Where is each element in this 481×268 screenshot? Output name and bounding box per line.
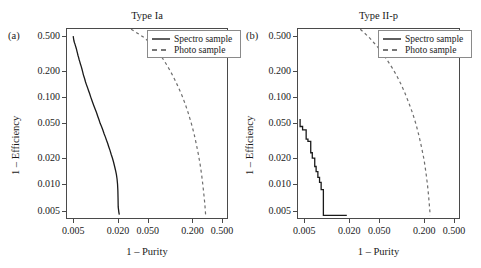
x-axis-label-b: 1 – Purity bbox=[297, 246, 460, 257]
y-tick-label: 0.020 bbox=[247, 152, 291, 163]
y-tick-mark bbox=[293, 71, 297, 72]
x-tick-label: 0.050 bbox=[357, 225, 401, 236]
x-tick-label: 0.500 bbox=[432, 225, 476, 236]
y-tick-label: 0.050 bbox=[16, 117, 60, 128]
legend-label-spectro-a: Spectro sample bbox=[171, 34, 232, 44]
legend-row-photo-a: Photo sample bbox=[151, 44, 236, 55]
y-tick-mark bbox=[62, 158, 66, 159]
x-tick-label: 0.005 bbox=[51, 225, 95, 236]
legend-a: Spectro sample Photo sample bbox=[147, 30, 241, 58]
legend-row-spectro-a: Spectro sample bbox=[151, 33, 236, 44]
x-tick-mark bbox=[424, 219, 425, 223]
legend-label-photo-a: Photo sample bbox=[171, 45, 225, 55]
panel-title-a: Type Ia bbox=[66, 10, 228, 21]
legend-label-spectro-b: Spectro sample bbox=[402, 34, 463, 44]
y-tick-label: 0.010 bbox=[247, 178, 291, 189]
legend-row-spectro-b: Spectro sample bbox=[382, 33, 467, 44]
panel-title-b: Type II-p bbox=[297, 10, 460, 21]
y-tick-mark bbox=[293, 97, 297, 98]
x-tick-mark bbox=[118, 219, 119, 223]
legend-row-photo-b: Photo sample bbox=[382, 44, 467, 55]
x-tick-label: 0.050 bbox=[126, 225, 170, 236]
y-tick-label: 0.200 bbox=[247, 65, 291, 76]
y-tick-label: 0.050 bbox=[247, 117, 291, 128]
x-tick-mark bbox=[349, 219, 350, 223]
legend-label-photo-b: Photo sample bbox=[402, 45, 456, 55]
y-tick-mark bbox=[293, 36, 297, 37]
panel-type-iip: (b) Type II-p 1 – Efficiency 1 – Purity … bbox=[240, 0, 481, 268]
y-tick-mark bbox=[62, 71, 66, 72]
y-tick-label: 0.500 bbox=[247, 30, 291, 41]
y-tick-mark bbox=[62, 184, 66, 185]
y-tick-mark bbox=[293, 211, 297, 212]
x-tick-mark bbox=[192, 219, 193, 223]
y-tick-label: 0.200 bbox=[16, 65, 60, 76]
figure-root: (a) Type Ia 1 – Efficiency 1 – Purity 0.… bbox=[0, 0, 481, 268]
y-tick-label: 0.005 bbox=[247, 205, 291, 216]
curve-spectro-b bbox=[300, 119, 347, 215]
y-tick-mark bbox=[293, 158, 297, 159]
solid-line-icon bbox=[382, 33, 402, 44]
y-tick-mark bbox=[293, 184, 297, 185]
y-tick-mark bbox=[293, 123, 297, 124]
solid-line-icon bbox=[151, 33, 171, 44]
y-tick-mark bbox=[62, 97, 66, 98]
x-tick-label: 0.500 bbox=[200, 225, 244, 236]
x-tick-mark bbox=[379, 219, 380, 223]
x-tick-mark bbox=[73, 219, 74, 223]
y-tick-label: 0.500 bbox=[16, 30, 60, 41]
y-tick-mark bbox=[62, 123, 66, 124]
panel-type-ia: (a) Type Ia 1 – Efficiency 1 – Purity 0.… bbox=[0, 0, 240, 268]
y-tick-mark bbox=[62, 211, 66, 212]
x-tick-mark bbox=[304, 219, 305, 223]
dashed-line-icon bbox=[151, 44, 171, 55]
curve-spectro-a bbox=[73, 36, 119, 214]
x-axis-label-a: 1 – Purity bbox=[66, 246, 228, 257]
dashed-line-icon bbox=[382, 44, 402, 55]
y-tick-label: 0.100 bbox=[16, 91, 60, 102]
y-tick-mark bbox=[62, 36, 66, 37]
x-tick-mark bbox=[454, 219, 455, 223]
y-tick-label: 0.005 bbox=[16, 205, 60, 216]
y-tick-label: 0.020 bbox=[16, 152, 60, 163]
x-tick-label: 0.005 bbox=[282, 225, 326, 236]
y-tick-label: 0.100 bbox=[247, 91, 291, 102]
y-tick-label: 0.010 bbox=[16, 178, 60, 189]
legend-b: Spectro sample Photo sample bbox=[378, 30, 472, 58]
x-tick-mark bbox=[222, 219, 223, 223]
x-tick-mark bbox=[148, 219, 149, 223]
